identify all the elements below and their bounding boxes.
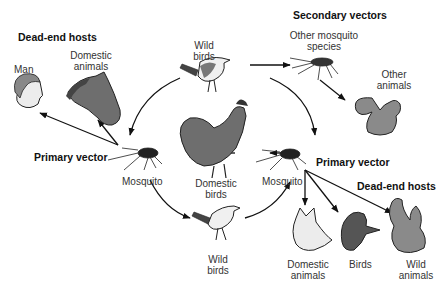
horse-head-icon xyxy=(66,72,120,125)
label-line: animals xyxy=(285,270,331,281)
label-wild-birds-bottom: Wild birds xyxy=(201,254,235,276)
right-mosquito-icon xyxy=(256,149,306,170)
other-mosquito-icon xyxy=(290,58,338,80)
heading-primary-vector-right: Primary vector xyxy=(316,156,390,168)
heading-dead-end-hosts-left: Dead-end hosts xyxy=(18,31,97,43)
heading-dead-end-hosts-right: Dead-end hosts xyxy=(357,180,436,192)
label-line: Other xyxy=(374,69,414,80)
squirrel-icon xyxy=(355,98,400,135)
label-domestic-birds: Domestic birds xyxy=(194,178,238,200)
heading-secondary-vectors: Secondary vectors xyxy=(293,9,387,21)
label-line: birds xyxy=(201,265,235,276)
rabbit-head-icon xyxy=(389,198,425,252)
label-wild-animals: Wild animals xyxy=(396,259,436,281)
heading-primary-vector-left: Primary vector xyxy=(34,151,108,163)
label-wild-birds-top: Wild birds xyxy=(186,40,222,62)
label-line: birds xyxy=(194,189,238,200)
man-head-icon xyxy=(14,74,42,108)
rooster-icon xyxy=(180,99,248,178)
label-line: Other mosquito xyxy=(289,30,359,41)
pig-head-icon xyxy=(293,208,332,250)
wild-bird-top-icon xyxy=(180,58,230,93)
label-line: Domestic xyxy=(194,178,238,189)
label-line: Wild xyxy=(201,254,235,265)
label-line: Wild xyxy=(396,259,436,270)
label-line: Wild xyxy=(186,40,222,51)
label-line: Domestic xyxy=(285,259,331,270)
label-line: animals xyxy=(68,61,114,72)
label-mosquito-right: Mosquito xyxy=(262,176,303,187)
label-line: birds xyxy=(186,51,222,62)
label-other-animals: Other animals xyxy=(374,69,414,91)
label-mosquito-left: Mosquito xyxy=(122,176,163,187)
label-line: Domestic xyxy=(68,50,114,61)
label-birds: Birds xyxy=(349,259,372,270)
label-domestic-animals-bottom: Domestic animals xyxy=(285,259,331,281)
label-other-mosquito-species: Other mosquito species xyxy=(289,30,359,52)
left-mosquito-icon xyxy=(108,148,162,170)
duck-head-icon xyxy=(341,212,380,250)
label-domestic-animals-top: Domestic animals xyxy=(68,50,114,72)
label-line: species xyxy=(289,41,359,52)
wild-bird-bottom-icon xyxy=(192,206,240,240)
label-man: Man xyxy=(14,64,33,75)
label-line: animals xyxy=(374,80,414,91)
label-line: animals xyxy=(396,270,436,281)
